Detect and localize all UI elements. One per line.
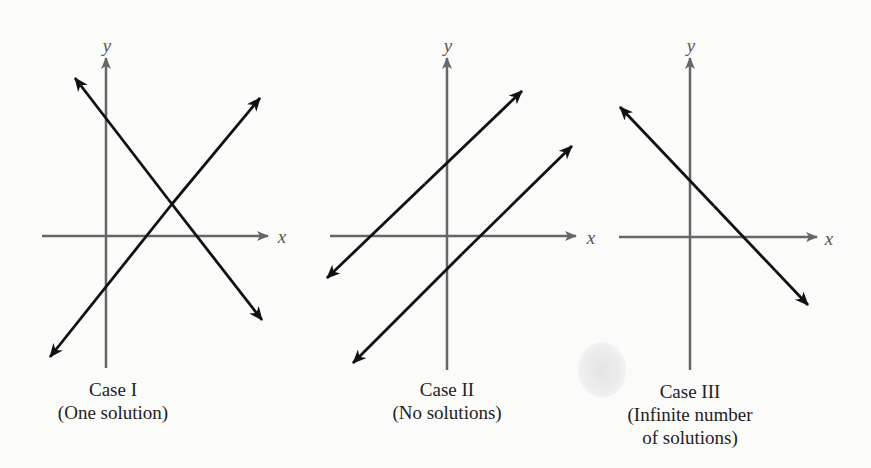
case-title: Case II (392, 378, 501, 401)
caption-case-3: Case III (Infinite number of solutions) (627, 380, 752, 449)
coincident-line (714, 206, 808, 305)
panel-case-2 (327, 58, 576, 370)
parallel-line-lower (462, 146, 572, 254)
caption-case-2: Case II (No solutions) (392, 378, 501, 424)
line-decreasing (75, 78, 168, 199)
case-description: of solutions) (627, 426, 752, 449)
line-decreasing (168, 199, 262, 320)
line-increasing (172, 98, 260, 204)
x-axis-label: x (825, 229, 833, 248)
y-axis-label: y (687, 36, 695, 55)
case-title: Case III (627, 380, 752, 403)
axes (330, 58, 576, 370)
x-axis-label: x (587, 228, 595, 247)
axes (42, 58, 268, 368)
caption-case-1: Case I (One solution) (58, 378, 168, 424)
coincident-line (620, 107, 714, 206)
case-description: (One solution) (58, 401, 168, 424)
line-increasing (50, 204, 172, 357)
parallel-line-upper (327, 184, 425, 278)
axes (619, 58, 817, 370)
case-description: (No solutions) (392, 401, 501, 424)
panel-case-3 (619, 58, 817, 370)
case-description: (Infinite number (627, 403, 752, 426)
y-axis-label: y (103, 36, 111, 55)
y-axis-label: y (444, 36, 452, 55)
parallel-line-upper (425, 91, 522, 184)
case-title: Case I (58, 378, 168, 401)
parallel-line-lower (353, 254, 462, 363)
panel-case-1 (42, 58, 268, 368)
x-axis-label: x (278, 227, 286, 246)
